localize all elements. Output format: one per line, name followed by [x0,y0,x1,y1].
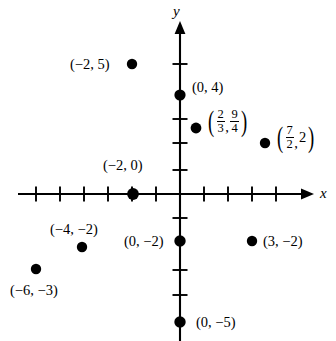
right-paren-glyph: ) [241,109,247,134]
point-label-0-neg5: (0, −5) [196,315,236,330]
whole-number-two: 2 [299,130,306,145]
fraction-nine-fourths: 9 4 [230,108,238,135]
coordinate-plane-figure: y x (−2, 5) (0, 4) (−2, 0) (0, −2) (3, −… [0,0,336,341]
point-neg2-5 [127,59,137,69]
y-axis-arrowhead [175,21,186,34]
denominator: 3 [217,121,225,135]
point-0-neg5 [174,316,185,327]
point-0-neg2 [174,235,185,246]
point-label-neg6-neg3: (−6, −3) [10,283,58,298]
denominator: 4 [230,121,238,135]
comma-glyph: , [294,136,298,152]
point-0-4 [174,89,185,100]
point-neg4-neg2 [77,242,87,252]
numerator: 7 [286,124,294,137]
comma-glyph: , [225,120,229,136]
denominator: 2 [286,137,294,151]
numerator: 9 [230,108,238,121]
point-neg2-0 [127,188,139,200]
fraction-two-thirds: 2 3 [217,108,225,135]
point-neg6-neg3 [31,264,41,274]
point-label-sevenhalves-two: ( 7 2 , 2 ) [275,124,316,151]
point-label-neg2-5: (−2, 5) [70,57,110,72]
point-sevenhalves [260,138,270,148]
point-twothirds [191,123,202,134]
y-axis-label: y [173,4,180,19]
fraction-seven-halves: 7 2 [286,124,294,151]
x-axis-label: x [320,186,327,201]
x-axis-arrowhead [301,189,314,200]
point-label-neg4-neg2: (−4, −2) [50,222,98,237]
numerator: 2 [217,108,225,121]
point-label-neg2-0: (−2, 0) [103,158,143,173]
left-paren-glyph: ( [277,125,283,150]
left-paren-glyph: ( [208,109,214,134]
right-paren-glyph: ) [308,125,314,150]
point-label-3-neg2: (3, −2) [263,234,303,249]
point-label-twothirds-ninefourths: ( 2 3 , 9 4 ) [206,108,249,135]
point-label-0-4: (0, 4) [192,80,223,95]
point-3-neg2 [247,236,257,246]
point-label-0-neg2: (0, −2) [124,234,164,249]
